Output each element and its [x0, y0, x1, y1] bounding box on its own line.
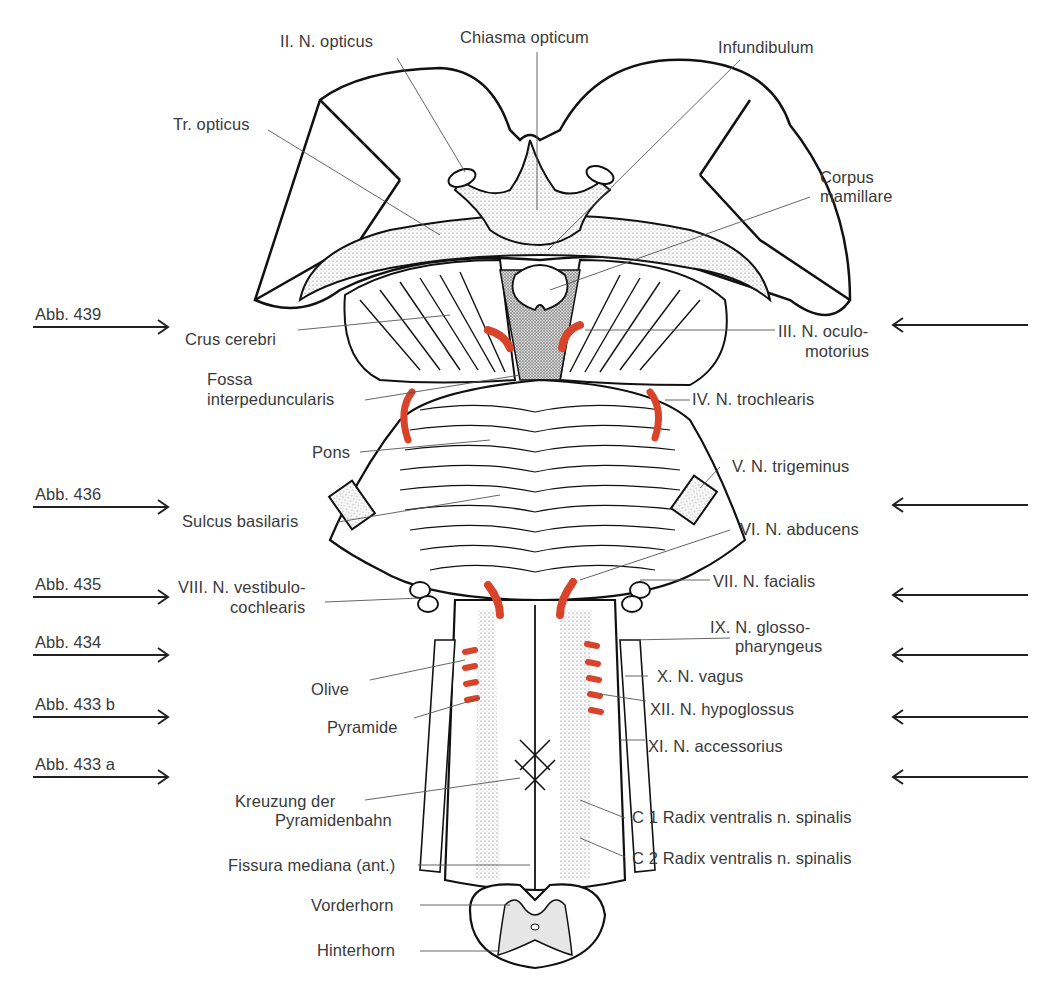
- label-vorderhorn: Vorderhorn: [311, 896, 394, 915]
- label-kreuzung-der: Kreuzung der: [235, 792, 335, 811]
- label-fissura-mediana: Fissura mediana (ant.): [228, 856, 395, 875]
- label-c1-radix: C 1 Radix ventralis n. spinalis: [632, 808, 852, 827]
- section-ref-433b: Abb. 433 b: [35, 695, 115, 714]
- section-ref-433a: Abb. 433 a: [35, 755, 115, 774]
- section-ref-439: Abb. 439: [35, 305, 101, 324]
- label-v-trigeminus: V. N. trigeminus: [732, 457, 849, 476]
- label-pyramidenbahn: Pyramidenbahn: [275, 811, 392, 830]
- label-iv-trochlearis: IV. N. trochlearis: [692, 390, 814, 409]
- label-corpus: Corpus: [820, 168, 874, 187]
- label-n-opticus: II. N. opticus: [280, 32, 373, 51]
- label-olive: Olive: [311, 680, 349, 699]
- label-vi-abducens: VI. N. abducens: [740, 520, 859, 539]
- label-cochlearis: cochlearis: [230, 598, 305, 617]
- label-crus-cerebri: Crus cerebri: [185, 330, 276, 349]
- label-motorius: motorius: [805, 342, 869, 361]
- label-pharyngeus: pharyngeus: [735, 637, 822, 656]
- section-ref-436: Abb. 436: [35, 485, 101, 504]
- label-infundibulum: Infundibulum: [718, 38, 814, 57]
- label-vii-facialis: VII. N. facialis: [713, 572, 815, 591]
- section-ref-434: Abb. 434: [35, 633, 101, 652]
- label-hinterhorn: Hinterhorn: [317, 941, 395, 960]
- corpus-mamillare: [513, 265, 568, 310]
- brainstem-illustration: [0, 0, 1063, 987]
- label-viii-vestibulo: VIII. N. vestibulo-: [178, 578, 306, 597]
- section-ref-435: Abb. 435: [35, 575, 101, 594]
- label-fossa: Fossa: [207, 370, 252, 389]
- label-c2-radix: C 2 Radix ventralis n. spinalis: [632, 849, 852, 868]
- label-iii-oculo: III. N. oculo-: [778, 322, 868, 341]
- label-pons: Pons: [312, 443, 350, 462]
- label-xi-accessorius: XI. N. accessorius: [648, 737, 783, 756]
- label-tr-opticus: Tr. opticus: [173, 115, 250, 134]
- label-sulcus-basilaris: Sulcus basilaris: [182, 512, 298, 531]
- label-chiasma-opticum: Chiasma opticum: [460, 28, 589, 47]
- label-xii-hypoglossus: XII. N. hypoglossus: [650, 700, 794, 719]
- label-ix-glosso: IX. N. glosso-: [710, 618, 810, 637]
- label-x-vagus: X. N. vagus: [657, 667, 743, 686]
- label-pyramide: Pyramide: [327, 718, 398, 737]
- label-mamillare: mamillare: [820, 187, 892, 206]
- label-interpeduncularis: interpeduncularis: [207, 390, 334, 409]
